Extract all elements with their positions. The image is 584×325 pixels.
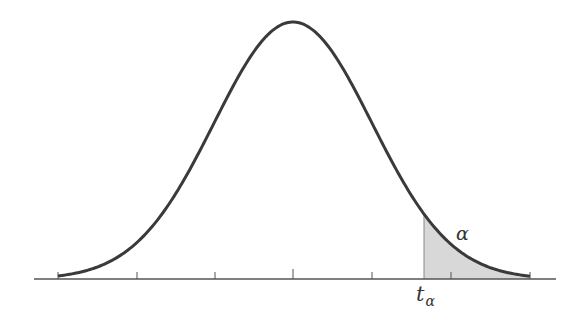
t-distribution-diagram bbox=[0, 0, 584, 325]
alpha-label: α bbox=[456, 222, 469, 244]
t-subscript: α bbox=[425, 293, 434, 309]
t-base: t bbox=[416, 282, 424, 306]
t-alpha-label: tα bbox=[416, 282, 435, 306]
tail-area-shading bbox=[424, 214, 530, 279]
